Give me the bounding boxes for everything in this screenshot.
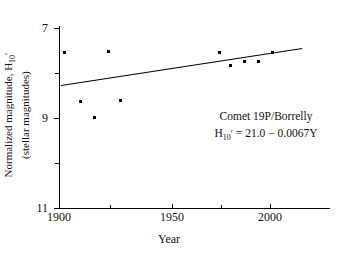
equation-lhs: H	[214, 127, 222, 139]
y-axis-title-prime: ′	[3, 53, 14, 55]
data-point	[79, 100, 82, 103]
x-axis-title: Year	[0, 232, 338, 247]
y-tick-label-7: 7	[8, 22, 48, 34]
chart-annotation: Comet 19P/Borrelly H10′ = 21.0 − 0.0067Y	[196, 108, 336, 146]
data-point	[257, 60, 260, 63]
comet-name-label: Comet 19P/Borrelly	[196, 108, 336, 125]
x-axis-line	[59, 208, 330, 209]
y-axis-title-line1: Normalized magnitude, H10′	[2, 35, 19, 195]
data-point	[107, 50, 110, 53]
data-point	[243, 60, 246, 63]
magnitude-vs-year-chart: 7 9 11 1900 1950 2000 Year Normalized ma…	[0, 0, 338, 256]
y-axis-title-subscript: 10	[8, 55, 17, 63]
equation-prime: ′	[231, 128, 233, 139]
regression-line	[61, 48, 302, 86]
data-point	[271, 51, 274, 54]
data-point	[93, 116, 96, 119]
x-tick-label-1950: 1950	[152, 211, 192, 223]
equation-subscript: 10	[223, 133, 231, 142]
data-point	[218, 51, 221, 54]
regression-equation-label: H10′ = 21.0 − 0.0067Y	[196, 125, 336, 146]
equation-rhs: = 21.0 − 0.0067Y	[236, 127, 318, 139]
x-tick-label-1900: 1900	[39, 211, 79, 223]
data-point	[229, 64, 232, 67]
y-axis-title-text: Normalized magnitude, H	[2, 63, 14, 178]
y-axis-title-line2: (stellar magnitudes)	[19, 35, 32, 195]
data-point	[63, 51, 66, 54]
data-point	[119, 99, 122, 102]
y-axis-title: Normalized magnitude, H10′ (stellar magn…	[2, 35, 32, 195]
x-tick-label-2000: 2000	[250, 211, 290, 223]
